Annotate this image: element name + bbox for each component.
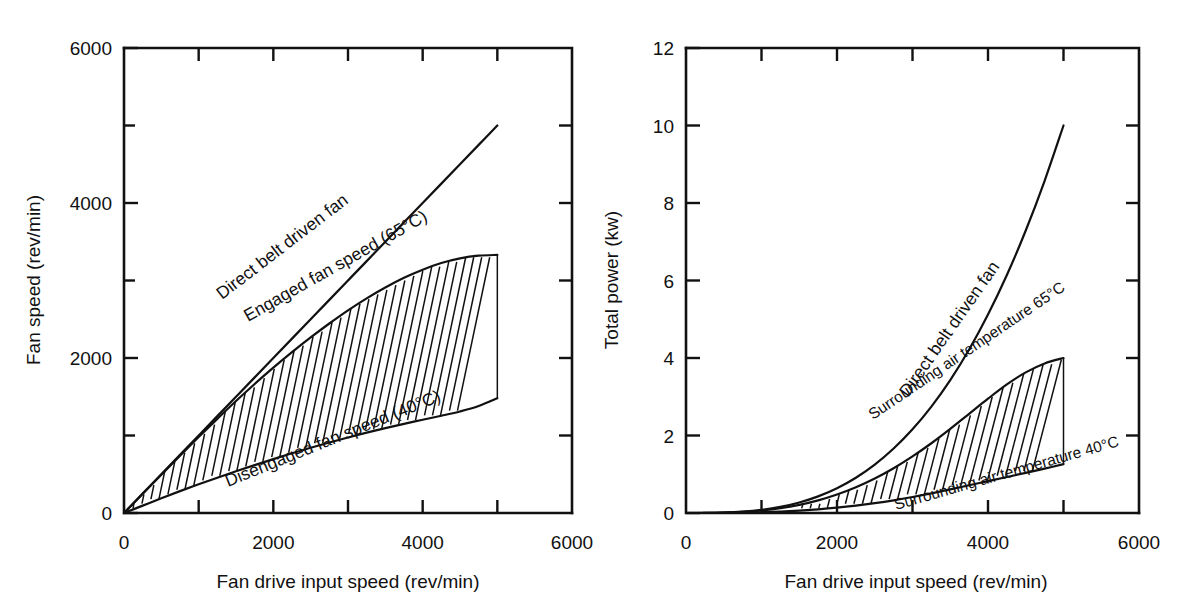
y-ticklabel: 2000	[70, 348, 112, 369]
left-chart-y-ticks-right	[559, 126, 572, 436]
figure-root: 0200040006000 0200040006000 Fan speed (r…	[0, 0, 1191, 614]
y-ticklabel: 0	[101, 503, 112, 524]
x-ticklabel: 0	[119, 532, 130, 553]
y-ticklabel: 10	[653, 116, 674, 137]
y-ticklabel: 4000	[70, 193, 112, 214]
right-chart-axes	[686, 48, 1139, 513]
right-chart-y-axis-title: Total power (kw)	[601, 211, 622, 349]
left-chart-y-ticklabels: 0200040006000	[70, 38, 112, 524]
x-ticklabel: 2000	[252, 532, 294, 553]
left-chart-x-axis-title: Fan drive input speed (rev/min)	[217, 571, 480, 592]
total-power-chart-svg: 024681012 0200040006000 Total power (kw)…	[596, 0, 1191, 614]
x-ticklabel: 6000	[551, 532, 593, 553]
x-ticklabel: 0	[681, 532, 692, 553]
x-ticklabel: 6000	[1118, 532, 1160, 553]
left-chart-label-disengaged-fan-speed: Disengaged fan speed (40°C)	[222, 386, 443, 491]
right-chart-y-ticks-right	[1126, 126, 1139, 436]
right-chart-label-surrounding-air-temperature-40c: Surrounding air temperature 40°C	[892, 432, 1120, 513]
y-ticklabel: 8	[663, 193, 674, 214]
left-chart-hatched-region	[133, 255, 497, 508]
y-ticklabel: 0	[663, 503, 674, 524]
total-power-chart-panel: 024681012 0200040006000 Total power (kw)…	[596, 0, 1191, 614]
x-ticklabel: 2000	[816, 532, 858, 553]
fan-speed-chart-svg: 0200040006000 0200040006000 Fan speed (r…	[0, 0, 595, 614]
x-ticklabel: 4000	[402, 532, 444, 553]
right-chart-x-ticklabels: 0200040006000	[681, 532, 1160, 553]
y-ticklabel: 12	[653, 38, 674, 59]
left-chart-y-ticks	[124, 48, 138, 513]
left-chart-x-ticklabels: 0200040006000	[119, 532, 593, 553]
right-chart-y-ticklabels: 024681012	[653, 38, 675, 524]
right-chart-x-axis-title: Fan drive input speed (rev/min)	[785, 571, 1048, 592]
y-ticklabel: 2	[663, 426, 674, 447]
left-chart-y-axis-title: Fan speed (rev/min)	[23, 195, 44, 365]
x-ticklabel: 4000	[967, 532, 1009, 553]
right-chart-y-ticks	[686, 48, 700, 513]
y-ticklabel: 4	[663, 348, 674, 369]
y-ticklabel: 6	[663, 271, 674, 292]
y-ticklabel: 6000	[70, 38, 112, 59]
right-chart-x-ticks	[762, 48, 1064, 513]
fan-speed-chart-panel: 0200040006000 0200040006000 Fan speed (r…	[0, 0, 595, 614]
